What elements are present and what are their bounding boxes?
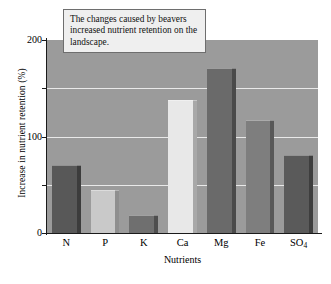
x-tick-label-Fe: Fe [241, 236, 280, 249]
bar-K [129, 215, 158, 233]
bar-top-highlight [129, 215, 158, 216]
bar-side-shade [270, 120, 274, 233]
y-tick-label-200: 200 [16, 35, 42, 45]
bar-top-highlight [207, 68, 236, 69]
bar-Ca [168, 100, 197, 233]
bar-N [52, 165, 81, 233]
bar-face [284, 155, 309, 233]
bar-series [47, 40, 318, 233]
y-tick-label-0: 0 [16, 228, 42, 238]
annotation-textbox: The changes caused by beavers increased … [63, 9, 206, 53]
bar-top-highlight [91, 190, 120, 191]
x-axis-tick-labels: NPKCaMgFeSO4 [47, 236, 318, 252]
bar-top-highlight [246, 120, 275, 121]
x-tick-label-N: N [47, 236, 86, 249]
bar-face [246, 120, 271, 233]
bar-side-shade [232, 68, 236, 233]
x-tick-label-K: K [124, 236, 163, 249]
y-axis-ticks: 0100200 [10, 0, 42, 284]
bar-SO4 [284, 155, 313, 233]
bar-P [91, 190, 120, 233]
x-tick-label-P: P [86, 236, 125, 249]
plot-area [47, 40, 318, 233]
bar-side-shade [77, 165, 81, 233]
x-tick-label-Ca: Ca [163, 236, 202, 249]
x-axis-line [44, 233, 322, 234]
y-tick-label-100: 100 [16, 132, 42, 142]
bar-chart-figure: Increase in nutrient retention (%) 01002… [0, 0, 331, 284]
bar-face [207, 68, 232, 233]
bar-face [52, 165, 77, 233]
bar-top-highlight [52, 165, 81, 166]
x-tick-label-SO4: SO4 [279, 236, 318, 250]
x-axis-title: Nutrients [47, 254, 318, 265]
bar-side-shade [115, 190, 119, 233]
bar-side-shade [309, 155, 313, 233]
bar-side-shade [193, 100, 197, 233]
bar-face [91, 190, 116, 233]
bar-face [129, 215, 154, 233]
bar-Fe [246, 120, 275, 233]
bar-face [168, 100, 193, 233]
bar-top-highlight [284, 155, 313, 156]
bar-Mg [207, 68, 236, 233]
bar-top-highlight [168, 100, 197, 101]
x-tick-label-Mg: Mg [202, 236, 241, 249]
bar-side-shade [154, 215, 158, 233]
